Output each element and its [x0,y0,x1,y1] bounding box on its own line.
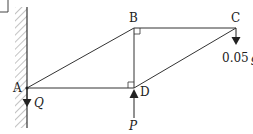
load-arrow-icon [232,28,241,45]
load-value: 0.05 [222,51,249,65]
label-d: D [140,85,150,99]
load-unit: g [251,51,253,65]
label-p: P [128,119,138,133]
cropped-box-edge [0,0,8,12]
label-c: C [231,11,240,25]
force-p-arrow-icon [130,89,139,118]
member-dc [134,28,236,88]
label-load: 0.05g [222,51,253,65]
label-q: Q [34,96,44,110]
right-angle-b-icon [134,28,140,34]
label-a: A [12,81,22,95]
truss-diagram: A B C D Q P 0.05g [0,0,253,134]
truss-members [27,28,236,88]
wall-support [15,7,27,128]
label-b: B [129,11,138,25]
member-ab [27,28,134,88]
right-angle-d-icon [128,82,134,88]
